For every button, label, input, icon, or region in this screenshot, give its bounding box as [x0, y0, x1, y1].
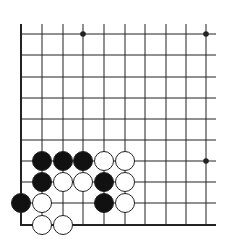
white-stone-icon [33, 216, 52, 235]
white-stone-icon [116, 194, 135, 213]
go-board [0, 0, 231, 250]
black-stone-icon [74, 152, 93, 171]
white-stone-icon [95, 152, 114, 171]
black-stone-icon [33, 152, 52, 171]
white-stone-icon [116, 173, 135, 192]
black-stone-icon [54, 152, 73, 171]
white-stone-icon [54, 173, 73, 192]
stones [12, 152, 135, 235]
star-point-icon [203, 158, 209, 164]
black-stone-icon [12, 194, 31, 213]
black-stone-icon [33, 173, 52, 192]
white-stone-icon [74, 173, 93, 192]
white-stone-icon [116, 152, 135, 171]
star-point-icon [80, 31, 86, 37]
board-grid [20, 24, 216, 225]
black-stone-icon [95, 173, 114, 192]
star-point-icon [203, 31, 209, 37]
white-stone-icon [54, 216, 73, 235]
black-stone-icon [95, 194, 114, 213]
white-stone-icon [33, 194, 52, 213]
